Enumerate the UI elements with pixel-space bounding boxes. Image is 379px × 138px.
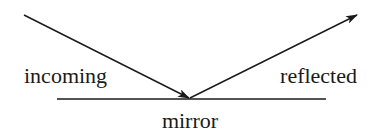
incoming-label: incoming bbox=[24, 63, 107, 88]
mirror-label: mirror bbox=[162, 108, 219, 133]
reflection-diagram: incoming reflected mirror bbox=[0, 0, 379, 138]
reflected-label: reflected bbox=[280, 63, 357, 88]
